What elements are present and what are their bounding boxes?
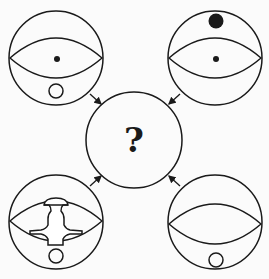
panel-bottom-right xyxy=(168,175,262,269)
panel-bottom-left xyxy=(9,175,103,269)
small-circle-icon xyxy=(49,84,63,98)
arrow-top-left xyxy=(90,94,101,104)
center-dot-icon xyxy=(213,56,219,62)
large-dot-icon xyxy=(209,14,224,29)
arrow-top-right xyxy=(169,94,180,104)
outer-circle xyxy=(168,175,262,269)
center-dot-icon xyxy=(54,56,60,62)
panel-top-right xyxy=(168,11,262,105)
question-mark: ? xyxy=(104,112,164,168)
panel-top-left xyxy=(9,11,103,105)
puzzle-diagram: ? xyxy=(0,0,269,279)
small-circle-icon xyxy=(49,249,63,263)
small-circle-icon xyxy=(209,253,223,267)
arrow-bottom-right xyxy=(169,176,180,186)
arrow-bottom-left xyxy=(90,176,101,186)
eye-lens-shape xyxy=(169,204,261,244)
